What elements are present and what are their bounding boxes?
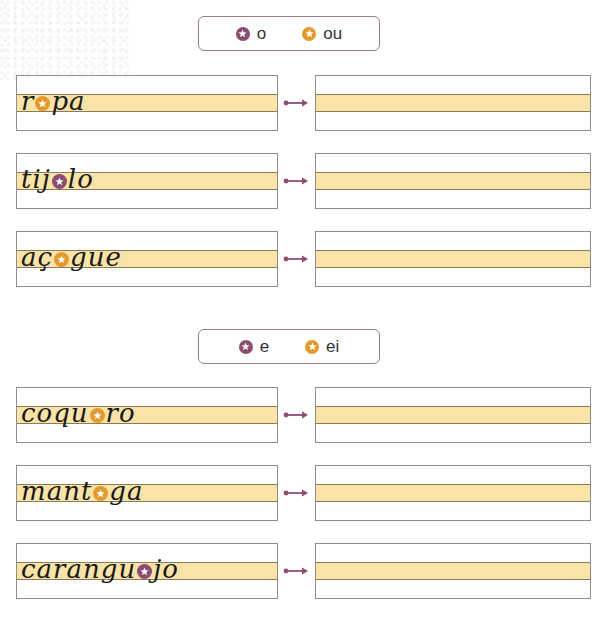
arrow-icon xyxy=(283,98,309,108)
star-badge-icon xyxy=(52,174,67,189)
star-badge-icon xyxy=(35,96,50,111)
arrow-icon xyxy=(283,566,309,576)
word-part-before: coqu xyxy=(21,400,89,426)
word-part-after: ro xyxy=(106,400,136,426)
writing-band xyxy=(316,250,590,268)
star-badge-icon xyxy=(93,486,108,501)
legend-label: o xyxy=(257,25,266,42)
writing-band xyxy=(316,94,590,112)
star-badge-icon xyxy=(90,408,105,423)
answer-box-5[interactable] xyxy=(315,465,591,521)
answer-box-3[interactable] xyxy=(315,231,591,287)
answer-text xyxy=(316,76,317,77)
word-box-ropa: r pa xyxy=(16,75,278,131)
legend-label: e xyxy=(260,338,269,355)
writing-band xyxy=(316,172,590,190)
star-badge-icon xyxy=(236,27,250,41)
arrow-icon xyxy=(283,176,309,186)
word-part-before: aç xyxy=(21,244,53,270)
word-part-after: pa xyxy=(51,88,85,114)
star-badge-icon xyxy=(239,340,253,354)
star-badge-icon xyxy=(54,252,69,267)
answer-box-4[interactable] xyxy=(315,387,591,443)
word-part-before: r xyxy=(21,88,34,114)
writing-band xyxy=(316,406,590,424)
legend-option-o: o xyxy=(236,25,266,42)
cursive-word: coqu ro xyxy=(21,400,136,426)
writing-band xyxy=(316,562,590,580)
word-part-after: ga xyxy=(109,478,143,504)
word-box-manteiga: mant ga xyxy=(16,465,278,521)
star-badge-icon xyxy=(137,564,152,579)
word-part-before: tij xyxy=(21,166,51,192)
answer-text xyxy=(316,466,317,467)
writing-band xyxy=(316,484,590,502)
star-badge-icon xyxy=(305,340,319,354)
word-part-after: lo xyxy=(68,166,94,192)
legend-label: ei xyxy=(326,338,339,355)
word-box-coqueiro: coqu ro xyxy=(16,387,278,443)
paper-texture xyxy=(0,0,130,80)
cursive-word: aç gue xyxy=(21,244,122,270)
legend-option-ei: ei xyxy=(305,338,339,355)
answer-box-2[interactable] xyxy=(315,153,591,209)
word-part-before: mant xyxy=(21,478,92,504)
cursive-word: mant ga xyxy=(21,478,144,504)
answer-text xyxy=(316,388,317,389)
answer-text xyxy=(316,544,317,545)
answer-box-6[interactable] xyxy=(315,543,591,599)
arrow-icon xyxy=(283,254,309,264)
answer-text xyxy=(316,232,317,233)
word-part-before: carangu xyxy=(21,556,136,582)
arrow-icon xyxy=(283,410,309,420)
word-box-caranguejo: carangu jo xyxy=(16,543,278,599)
legend-box-e-ei: e ei xyxy=(198,329,380,364)
arrow-icon xyxy=(283,488,309,498)
word-box-acougue: aç gue xyxy=(16,231,278,287)
word-part-after: jo xyxy=(153,556,179,582)
legend-box-o-ou: o ou xyxy=(198,16,380,51)
star-badge-icon xyxy=(302,27,316,41)
cursive-word: r pa xyxy=(21,88,86,114)
legend-label: ou xyxy=(323,25,342,42)
legend-option-ou: ou xyxy=(302,25,342,42)
worksheet-page: o ou r pa tij lo xyxy=(0,0,609,625)
cursive-word: tij lo xyxy=(21,166,94,192)
answer-box-1[interactable] xyxy=(315,75,591,131)
legend-option-e: e xyxy=(239,338,269,355)
word-part-after: gue xyxy=(70,244,122,270)
answer-text xyxy=(316,154,317,155)
cursive-word: carangu jo xyxy=(21,556,179,582)
word-box-tijolo: tij lo xyxy=(16,153,278,209)
